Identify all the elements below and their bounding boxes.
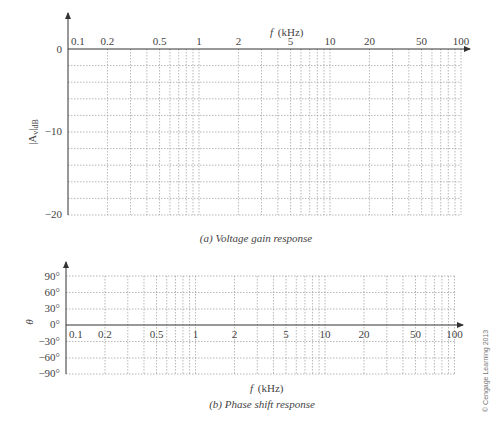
phase-y-tick-60: 60° (45, 286, 60, 298)
x-tick-label: 2 (236, 35, 242, 47)
x-tick-label: 50 (410, 328, 422, 340)
x-tick-label: 0.2 (98, 328, 112, 340)
bode-plot-figure: 0 −10 −20 0.10.20.5125102050100 f (kHz) … (0, 0, 504, 422)
x-tick-label: 100 (453, 35, 470, 47)
x-tick-label: 50 (416, 35, 428, 47)
phase-y-tick-90: 90° (45, 270, 60, 282)
gain-caption: (a) Voltage gain response (200, 232, 312, 245)
x-tick-label: 0.1 (69, 328, 83, 340)
x-tick-label: 10 (325, 35, 337, 47)
x-tick-label: 0.2 (101, 35, 115, 47)
x-tick-label: 1 (193, 328, 199, 340)
phase-chart: 90° 60° 30° 0° −30° −60° −90° 0.10.20.51… (23, 262, 463, 411)
gain-chart: 0 −10 −20 0.10.20.5125102050100 f (kHz) … (26, 13, 470, 245)
phase-y-tick-30: 30° (45, 302, 60, 314)
gain-grid (68, 49, 461, 215)
x-tick-label: 0.1 (71, 35, 85, 47)
phase-y-tick-neg90: −90° (38, 367, 60, 379)
gain-y-tick-10: −10 (45, 125, 63, 137)
gain-y-axis-title: |Av|dB (26, 119, 40, 145)
gain-y-tick-0: 0 (57, 43, 63, 55)
phase-y-axis-title: θ (23, 319, 35, 325)
x-tick-label: 5 (283, 328, 289, 340)
phase-x-axis-title: f (kHz) (250, 382, 284, 395)
x-tick-label: 100 (446, 328, 463, 340)
phase-y-tick-neg60: −60° (38, 351, 60, 363)
phase-y-tick-0: 0° (50, 318, 60, 330)
x-tick-label: 1 (196, 35, 202, 47)
phase-caption: (b) Phase shift response (209, 398, 315, 411)
gain-y-tick-20: −20 (45, 208, 63, 220)
x-tick-label: 10 (320, 328, 332, 340)
x-tick-label: 20 (358, 328, 370, 340)
gain-x-axis-title: f (kHz) (270, 26, 304, 39)
phase-y-tick-neg30: −30° (38, 335, 60, 347)
x-tick-label: 20 (364, 35, 376, 47)
x-tick-label: 0.5 (153, 35, 167, 47)
copyright-text: © Cengage Learning 2013 (482, 330, 490, 412)
x-tick-label: 2 (232, 328, 238, 340)
x-tick-label: 0.5 (150, 328, 164, 340)
